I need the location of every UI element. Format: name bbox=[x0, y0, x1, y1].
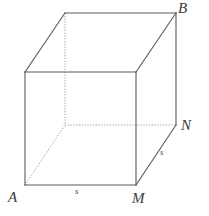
vertex-label-a: A bbox=[8, 190, 17, 205]
vertex-label-n: N bbox=[181, 118, 191, 133]
edge-top-right-depth bbox=[136, 13, 176, 72]
solid-edges-group bbox=[25, 13, 176, 185]
edge-length-label-bottom: s bbox=[75, 187, 79, 196]
cube-wireframe-svg bbox=[0, 0, 209, 216]
vertex-label-m: M bbox=[132, 191, 145, 206]
vertex-label-b: B bbox=[178, 1, 187, 16]
edge-top-left-depth bbox=[25, 13, 65, 72]
edge-bottom-right-depth bbox=[136, 125, 176, 185]
hidden-edge-bottom-left-depth bbox=[25, 125, 65, 185]
geometry-figure-canvas: B N M A s s bbox=[0, 0, 209, 216]
edge-length-label-right: s bbox=[160, 148, 164, 157]
